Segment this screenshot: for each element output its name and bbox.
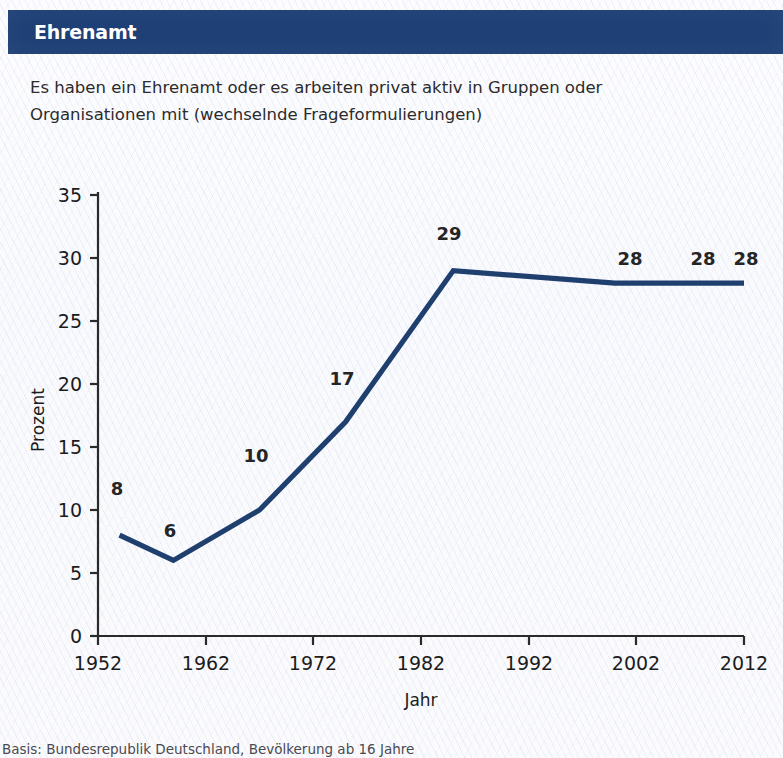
- chart-svg: 35 30 25 20 15 10 5 0 1952 1962: [0, 0, 783, 758]
- x-tick-label-2002: 2002: [612, 652, 660, 674]
- data-label-1985: 29: [436, 223, 461, 244]
- x-tick-label-1962: 1962: [182, 652, 230, 674]
- data-label-1954: 8: [111, 478, 124, 499]
- x-axis-ticks: [98, 636, 744, 645]
- data-label-2008: 28: [690, 248, 715, 269]
- x-tick-label-1982: 1982: [397, 652, 445, 674]
- series-data-labels: 8 6 10 17 29 28 28 28: [111, 223, 759, 541]
- x-tick-label-1972: 1972: [289, 652, 337, 674]
- data-label-2000: 28: [617, 248, 642, 269]
- page-root: Ehrenamt Es haben ein Ehrenamt oder es a…: [0, 0, 783, 758]
- y-tick-label-35: 35: [58, 184, 82, 206]
- data-label-2012: 28: [733, 248, 758, 269]
- data-label-1975: 17: [329, 368, 354, 389]
- y-axis-title: Prozent: [28, 388, 48, 452]
- x-tick-label-2012: 2012: [720, 652, 768, 674]
- y-tick-label-20: 20: [58, 373, 82, 395]
- y-axis-tick-labels: 35 30 25 20 15 10 5 0: [58, 184, 82, 647]
- y-tick-label-0: 0: [70, 625, 82, 647]
- x-tick-label-1952: 1952: [74, 652, 122, 674]
- series-line-ehrenamt: [120, 271, 744, 561]
- x-tick-label-1992: 1992: [505, 652, 553, 674]
- line-chart: 35 30 25 20 15 10 5 0 1952 1962: [0, 0, 783, 758]
- x-axis-tick-labels: 1952 1962 1972 1982 1992 2002 2012: [74, 652, 768, 674]
- y-tick-label-10: 10: [58, 499, 82, 521]
- x-axis-title: Jahr: [403, 690, 437, 710]
- y-tick-label-15: 15: [58, 436, 82, 458]
- chart-source-note: Basis: Bundesrepublik Deutschland, Bevöl…: [2, 741, 414, 757]
- y-axis-ticks: [90, 195, 98, 636]
- y-tick-label-5: 5: [70, 562, 82, 584]
- data-label-1959: 6: [164, 520, 177, 541]
- data-label-1967: 10: [243, 445, 268, 466]
- y-tick-label-25: 25: [58, 310, 82, 332]
- y-tick-label-30: 30: [58, 247, 82, 269]
